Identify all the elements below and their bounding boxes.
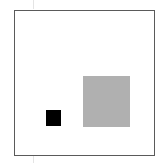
bottom-guide-tick — [33, 156, 34, 163]
top-guide-tick — [33, 0, 34, 9]
small-black-square — [46, 110, 61, 126]
large-gray-square — [83, 76, 130, 127]
